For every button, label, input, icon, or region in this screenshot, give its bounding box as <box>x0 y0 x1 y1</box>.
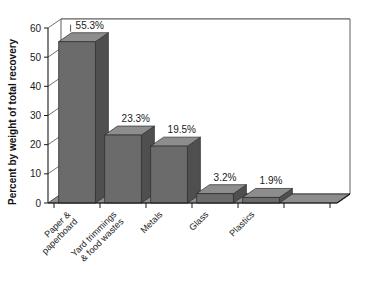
x-axis-label-line: Metals <box>139 209 165 235</box>
y-axis-title: Percent by weight of total recovery <box>7 38 18 205</box>
y-tick-label: 40 <box>30 81 42 92</box>
chart-canvas: Percent by weight of total recovery 0102… <box>0 0 367 281</box>
y-tick-label: 10 <box>30 168 42 179</box>
y-tick-label: 0 <box>35 198 41 209</box>
y-tick-label: 50 <box>30 52 42 63</box>
y-tick-label: 60 <box>30 23 42 34</box>
data-label: 23.3% <box>122 113 150 124</box>
gridline-connector <box>48 19 61 28</box>
data-label: 19.5% <box>168 124 196 135</box>
bar-front-face <box>59 42 96 203</box>
bar <box>105 126 155 203</box>
x-axis-label: Plastics <box>227 209 256 238</box>
x-axis-label-line: Plastics <box>227 209 256 238</box>
data-label: 55.3% <box>76 20 104 31</box>
bar-front-face <box>197 194 234 203</box>
y-tick-label: 20 <box>30 139 42 150</box>
y-axis-ticks: 0102030405060 <box>30 23 48 209</box>
x-axis-label-line: Glass <box>187 209 211 233</box>
data-label: 3.2% <box>214 172 237 183</box>
bar-front-face <box>243 197 280 203</box>
bar <box>151 137 201 203</box>
x-axis-label: Metals <box>139 209 165 235</box>
bar-front-face <box>151 146 188 203</box>
x-axis-label: Yard trimmings& food wastes <box>69 209 126 266</box>
x-axis-label: Glass <box>187 209 211 233</box>
bar <box>59 33 109 203</box>
x-axis-labels: Paper &paperboardYard trimmings& food wa… <box>33 209 257 266</box>
data-label: 1.9% <box>260 175 283 186</box>
y-tick-label: 30 <box>30 110 42 121</box>
bar-chart: Percent by weight of total recovery 0102… <box>0 0 367 281</box>
bar-front-face <box>105 135 142 203</box>
